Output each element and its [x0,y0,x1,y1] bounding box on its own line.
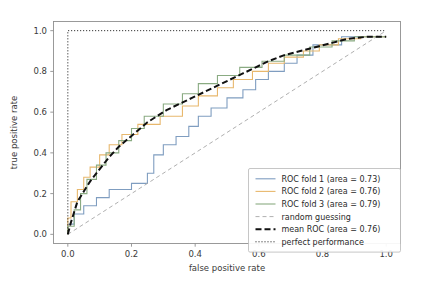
y-tick-label: 0.6 [33,107,47,117]
x-tick-label: 0.4 [188,249,202,259]
x-tick-label: 0.0 [61,249,75,259]
y-tick-label: 1.0 [33,26,47,36]
roc-plot-svg: 0.00.20.40.60.81.00.00.20.40.60.81.0fals… [0,0,432,292]
legend-label-1: ROC fold 2 (area = 0.76) [282,187,381,196]
y-tick-label: 0.2 [33,189,47,199]
x-tick-label: 0.2 [125,249,139,259]
legend-label-0: ROC fold 1 (area = 0.73) [282,175,381,184]
legend-label-4: mean ROC (area = 0.76) [282,225,381,234]
legend-label-5: perfect performance [282,238,364,247]
y-tick-label: 0.0 [33,229,47,239]
y-axis-label: true positive rate [9,96,19,169]
legend-label-2: ROC fold 3 (area = 0.79) [282,200,381,209]
y-tick-label: 0.4 [33,148,47,158]
y-tick-label: 0.8 [33,66,47,76]
legend: ROC fold 1 (area = 0.73)ROC fold 2 (area… [249,169,401,253]
x-axis-label: false positive rate [189,263,265,273]
legend-label-3: random guessing [282,213,351,222]
roc-curve-figure: 0.00.20.40.60.81.00.00.20.40.60.81.0fals… [0,0,432,292]
